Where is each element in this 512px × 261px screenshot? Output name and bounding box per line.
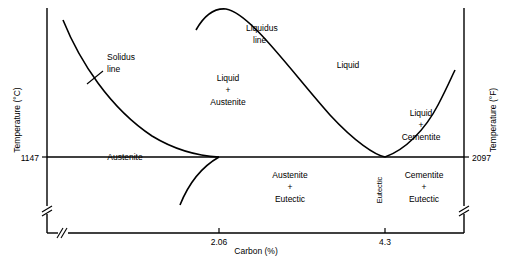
- phase-diagram-container: Temperature (°C) Temperature (°F) Carbon…: [0, 0, 512, 261]
- region-label-austenite: Austenite: [107, 152, 143, 162]
- region-label-liquid-austenite-line1: Liquid: [217, 73, 240, 83]
- liquidus-label-line2: line: [253, 35, 267, 45]
- bottom-axis: [47, 228, 464, 238]
- x-tick-label-206: 2.06: [211, 237, 228, 247]
- region-label-liquid-cementite-line1: Liquid: [410, 108, 433, 118]
- iron-carbon-phase-diagram: Temperature (°C) Temperature (°F) Carbon…: [0, 0, 512, 261]
- y-tick-label-2097: 2097: [472, 153, 491, 163]
- left-axis: [42, 8, 52, 233]
- y-axis-right-title: Temperature (°F): [488, 88, 498, 153]
- solidus-label-line2: line: [107, 64, 121, 74]
- solidus-label-line1: Solidus: [107, 52, 135, 62]
- region-label-austenite-eutectic-line3: Eutectic: [275, 194, 306, 204]
- region-label-cementite-eutectic-line1: Cementite: [405, 170, 444, 180]
- region-label-liquid: Liquid: [337, 60, 360, 70]
- region-label-liquid-cementite-line2: +: [419, 120, 424, 130]
- liquidus-label-line1: Liquidus: [246, 23, 278, 33]
- region-label-austenite-eutectic-line2: +: [288, 182, 293, 192]
- y-axis-left-title: Temperature (°C): [12, 87, 22, 152]
- region-label-liquid-austenite-line2: +: [226, 85, 231, 95]
- y-tick-label-1147: 1147: [21, 153, 40, 163]
- right-axis: [459, 8, 469, 233]
- region-label-liquid-cementite-line3: Cementite: [402, 132, 441, 142]
- eutectic-point-label: Eutectic: [375, 176, 384, 203]
- region-label-cementite-eutectic-line3: Eutectic: [409, 194, 440, 204]
- region-label-cementite-eutectic-line2: +: [422, 182, 427, 192]
- solidus-leader-line: [87, 71, 103, 84]
- region-label-austenite-eutectic-line1: Austenite: [272, 170, 308, 180]
- austenite-lower-boundary: [180, 157, 219, 205]
- region-label-liquid-austenite-line3: Austenite: [210, 97, 246, 107]
- x-axis-title: Carbon (%): [234, 246, 278, 256]
- x-tick-marks: [219, 228, 385, 233]
- solidus-curve: [63, 20, 219, 157]
- x-tick-label-43: 4.3: [379, 237, 391, 247]
